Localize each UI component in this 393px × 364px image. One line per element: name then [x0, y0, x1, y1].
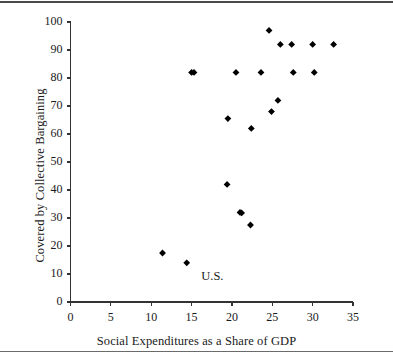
data-point [224, 181, 231, 188]
x-axis-title: Social Expenditures as a Share of GDP [0, 334, 393, 349]
data-point [224, 115, 231, 122]
data-point [330, 41, 337, 48]
data-point [266, 27, 273, 34]
y-tick-label-0: 0 [29, 294, 63, 309]
data-point [233, 69, 240, 76]
data-point [183, 259, 190, 266]
x-tick-label-5: 5 [96, 310, 126, 325]
data-point [258, 69, 265, 76]
y-axis-title: Covered by Collective Bargaining [33, 56, 48, 296]
x-tick-label-15: 15 [177, 310, 207, 325]
data-point [275, 97, 282, 104]
data-point [288, 41, 295, 48]
x-tick-label-20: 20 [217, 310, 247, 325]
axis-lines [71, 22, 354, 302]
data-point [277, 41, 284, 48]
x-tick-label-35: 35 [338, 310, 368, 325]
data-point [248, 125, 255, 132]
y-tick-label-100: 100 [29, 14, 63, 29]
data-point [290, 69, 297, 76]
scatter-plot-figure: 0102030405060708090100 05101520253035 U.… [0, 0, 393, 364]
data-point [268, 108, 275, 115]
data-point [309, 41, 316, 48]
x-tick-label-10: 10 [136, 310, 166, 325]
x-tick-label-30: 30 [298, 310, 328, 325]
x-tick-label-25: 25 [257, 310, 287, 325]
annotation-label: U.S. [201, 269, 223, 284]
data-point [159, 250, 166, 257]
tick-marks [67, 22, 354, 306]
data-point [311, 69, 318, 76]
x-tick-label-0: 0 [56, 310, 86, 325]
data-point [247, 222, 254, 229]
data-markers [159, 27, 337, 266]
